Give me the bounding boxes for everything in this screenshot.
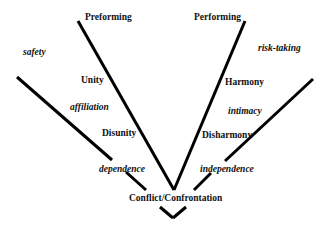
stage-performing: Performing xyxy=(194,13,241,23)
team-development-diagram: Preforming Performing safety risk-taking… xyxy=(0,0,331,231)
outer-right-line-lower xyxy=(194,173,211,190)
quality-affiliation: affiliation xyxy=(70,103,109,113)
bottom-v-right xyxy=(173,207,186,218)
stage-disharmony: Disharmony xyxy=(202,131,252,141)
outer-right-line-upper xyxy=(225,79,313,161)
stage-disunity: Disunity xyxy=(102,129,136,139)
outer-left-line-lower xyxy=(126,172,146,190)
stage-harmony: Harmony xyxy=(225,78,264,88)
quality-dependence: dependence xyxy=(99,165,145,175)
outer-left-line-upper xyxy=(17,77,112,160)
bottom-v-left xyxy=(160,207,173,218)
quality-independence: independence xyxy=(200,165,254,175)
quality-risk-taking: risk-taking xyxy=(258,44,301,54)
stage-unity: Unity xyxy=(81,76,104,86)
stage-preforming: Preforming xyxy=(85,13,132,23)
quality-intimacy: intimacy xyxy=(228,107,262,117)
stage-conflict-confrontation: Conflict/Confrontation xyxy=(129,194,222,204)
quality-safety: safety xyxy=(23,48,46,58)
